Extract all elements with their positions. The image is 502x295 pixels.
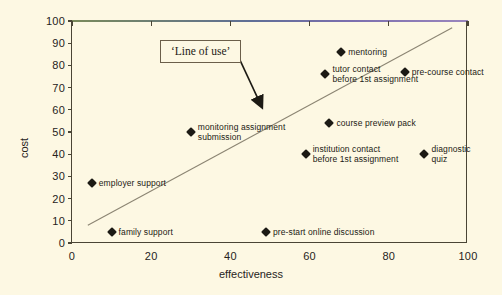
line-of-use-callout: ‘Line of use’ xyxy=(160,40,241,63)
y-tick-label: 100 xyxy=(25,16,65,27)
x-tick-label: 60 xyxy=(303,251,316,262)
y-tick-label: 20 xyxy=(25,193,65,204)
data-point-label: institution contact before 1st assignmen… xyxy=(313,144,399,164)
y-tick-label: 60 xyxy=(25,104,65,115)
y-tick-label: 10 xyxy=(25,215,65,226)
x-tick-label: 20 xyxy=(145,251,158,262)
data-point-label: diagnostic quiz xyxy=(431,144,470,164)
y-tick-label: 70 xyxy=(25,82,65,93)
data-point-label: family support xyxy=(119,227,173,237)
data-point-label: pre-course contact xyxy=(412,67,484,77)
data-point-label: mentoring xyxy=(348,47,387,57)
y-tick-label: 0 xyxy=(25,238,65,249)
data-point-label: course preview pack xyxy=(336,118,415,128)
data-point-label: employer support xyxy=(99,178,166,188)
y-tick-label: 80 xyxy=(25,60,65,71)
x-axis-title: effectiveness xyxy=(0,268,502,280)
data-point-label: monitoring assignment submission xyxy=(198,122,286,142)
x-tick-label: 0 xyxy=(69,251,75,262)
data-point-label: pre-start online discussion xyxy=(273,227,374,237)
x-tick-label: 100 xyxy=(459,251,478,262)
y-tick-label: 50 xyxy=(25,127,65,138)
y-tick-label: 90 xyxy=(25,38,65,49)
scatter-chart: cost effectiveness 010203040506070809010… xyxy=(0,0,502,295)
y-tick-label: 40 xyxy=(25,149,65,160)
y-tick-label: 30 xyxy=(25,171,65,182)
x-tick-label: 40 xyxy=(224,251,237,262)
x-tick-label: 80 xyxy=(382,251,395,262)
plot-area: 0102030405060708090100 020406080100 empl… xyxy=(71,21,467,243)
